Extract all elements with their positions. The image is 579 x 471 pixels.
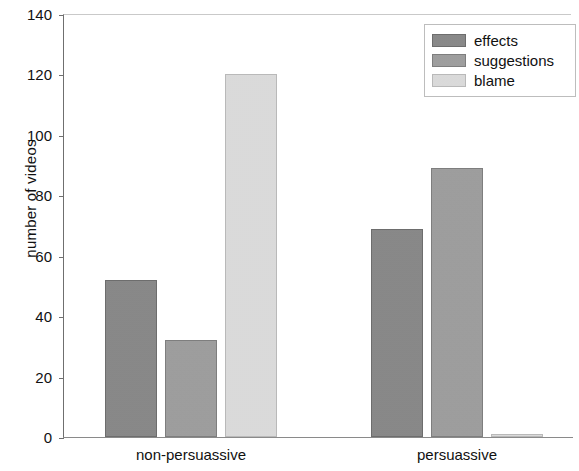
bar-suggestions-persuassive: [431, 168, 483, 437]
legend-label-effects: effects: [474, 33, 518, 48]
legend-item: effects: [432, 30, 569, 50]
y-axis-tick-label: 140: [6, 6, 52, 23]
x-axis-tick-label: non-persuassive: [136, 446, 246, 463]
y-axis-tick-label: 60: [6, 247, 52, 264]
bar-blame-nonpersuassive: [225, 74, 277, 437]
legend-swatch-suggestions: [432, 54, 466, 67]
y-axis-tick-label: 0: [6, 429, 52, 446]
y-axis-tick-mark: [59, 136, 64, 137]
legend-item: suggestions: [432, 50, 569, 70]
y-axis-tick-mark: [59, 317, 64, 318]
x-axis-tick-label: persuassive: [417, 446, 497, 463]
legend-swatch-blame: [432, 74, 466, 87]
y-axis-tick-mark: [59, 15, 64, 16]
bar-effects-persuassive: [371, 229, 423, 437]
bar-blame-persuassive: [491, 434, 543, 437]
y-axis-tick-mark: [59, 378, 64, 379]
y-axis-tick-label: 40: [6, 308, 52, 325]
y-axis-tick-label: 80: [6, 187, 52, 204]
y-axis-tick-mark: [59, 75, 64, 76]
y-axis-tick-mark: [59, 257, 64, 258]
bar-chart: number of videos 020406080100120140 non-…: [0, 0, 579, 471]
legend-label-blame: blame: [474, 73, 515, 88]
y-axis-tick-mark: [59, 196, 64, 197]
legend: effects suggestions blame: [424, 24, 576, 97]
y-axis-tick-label: 20: [6, 368, 52, 385]
y-axis-tick-labels: 020406080100120140: [0, 0, 52, 471]
y-axis-tick-label: 120: [6, 66, 52, 83]
y-axis-tick-mark: [59, 438, 64, 439]
bar-effects-nonpersuassive: [105, 280, 157, 437]
legend-swatch-effects: [432, 34, 466, 47]
y-axis-tick-label: 100: [6, 126, 52, 143]
bar-suggestions-nonpersuassive: [165, 340, 217, 437]
legend-label-suggestions: suggestions: [474, 53, 554, 68]
x-axis-baseline: [63, 437, 573, 438]
legend-item: blame: [432, 70, 569, 90]
